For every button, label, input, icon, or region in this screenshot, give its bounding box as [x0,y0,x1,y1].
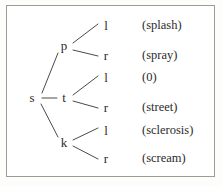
gloss-0: (splash) [142,19,182,32]
tree-node-p: p [44,39,84,52]
branch-label-5: r [86,152,126,165]
branch-label-0: l [86,19,126,32]
gloss-5: (scream) [142,152,186,165]
gloss-4: (sclerosis) [142,124,193,137]
tree-edge-s-to-k-2 [41,104,58,137]
tree-node-k: k [44,136,84,149]
tree-edge-s-to-p-0 [42,53,58,93]
branch-label-2: l [86,71,126,84]
tree-node-t: t [44,91,84,104]
gloss-3: (street) [142,101,177,114]
tree-diagram-figure: sptk lrlrlr (splash)(spray)(0)(street)(s… [0,0,222,187]
branch-label-1: r [86,49,126,62]
gloss-2: (0) [142,71,157,84]
branch-label-4: l [86,124,126,137]
branch-label-3: r [86,101,126,114]
gloss-1: (spray) [142,49,177,62]
